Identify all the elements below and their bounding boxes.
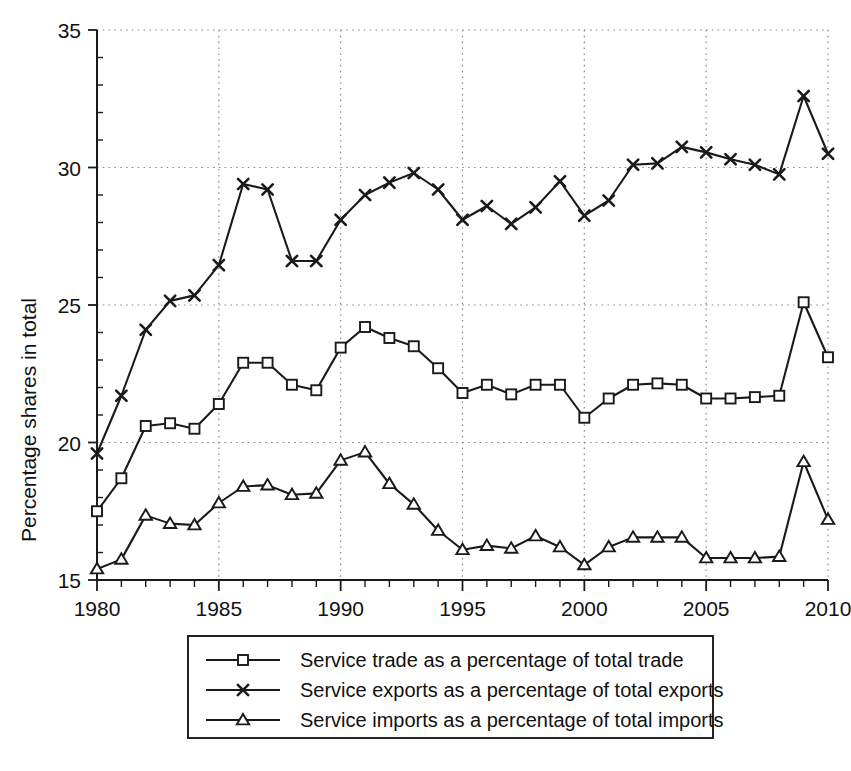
x-tick-label-1985: 1985: [195, 597, 242, 620]
data-point-1991: [360, 322, 370, 332]
data-point-1986: [238, 358, 248, 368]
data-point-2010: [823, 352, 833, 362]
data-point-2007: [750, 392, 760, 402]
x-tick-label-1995: 1995: [439, 597, 486, 620]
data-point-1991: [359, 446, 371, 456]
legend-item-0[interactable]: Service trade as a percentage of total t…: [206, 649, 684, 671]
data-point-1994: [433, 184, 443, 194]
y-tick-label-20: 20: [58, 432, 81, 455]
data-point-1981: [116, 391, 126, 401]
data-point-2010: [822, 513, 834, 523]
data-point-1987: [263, 358, 273, 368]
y-tick-label-25: 25: [58, 294, 81, 317]
legend-marker-square-icon: [238, 655, 248, 665]
data-point-2000: [579, 210, 589, 220]
x-tick-label-2000: 2000: [561, 597, 608, 620]
line-chart: 1520253035 1980198519901995200020052010 …: [0, 0, 851, 771]
data-point-2001: [604, 394, 614, 404]
data-point-1985: [214, 399, 224, 409]
legend-item-label: Service trade as a percentage of total t…: [300, 649, 684, 671]
x-tick-label-2005: 2005: [683, 597, 730, 620]
data-point-1996: [482, 201, 492, 211]
data-point-1988: [287, 380, 297, 390]
data-point-1992: [384, 177, 394, 187]
data-point-1992: [384, 333, 394, 343]
data-point-1982: [141, 421, 151, 431]
data-point-1981: [115, 553, 127, 563]
data-point-2000: [578, 559, 590, 569]
axis-ticks: [88, 30, 828, 591]
chart-legend: Service trade as a percentage of total t…: [188, 636, 724, 738]
legend-item-label: Service imports as a percentage of total…: [300, 709, 724, 731]
data-point-1982: [140, 509, 152, 519]
data-point-1994: [433, 363, 443, 373]
data-point-1998: [529, 530, 541, 540]
data-point-2002: [628, 380, 638, 390]
data-point-2003: [652, 378, 662, 388]
data-point-1984: [189, 424, 199, 434]
x-axis-tick-labels: 1980198519901995200020052010: [74, 597, 851, 620]
y-tick-label-30: 30: [58, 157, 81, 180]
data-point-1980: [92, 506, 102, 516]
data-point-2000: [579, 413, 589, 423]
data-point-2008: [773, 551, 785, 561]
legend-item-1[interactable]: Service exports as a percentage of total…: [206, 679, 724, 701]
x-tick-label-1980: 1980: [74, 597, 121, 620]
data-point-1990: [336, 343, 346, 353]
data-point-1989: [311, 385, 321, 395]
data-point-1991: [360, 190, 370, 200]
data-point-1999: [555, 380, 565, 390]
data-point-2006: [726, 394, 736, 404]
data-point-2008: [774, 391, 784, 401]
data-point-1997: [506, 219, 516, 229]
data-point-2001: [604, 195, 614, 205]
data-point-2009: [798, 91, 808, 101]
x-tick-label-2010: 2010: [805, 597, 851, 620]
data-point-1996: [481, 540, 493, 550]
series-line: [97, 302, 828, 511]
data-point-2008: [774, 169, 784, 179]
data-point-2004: [677, 380, 687, 390]
data-point-1985: [213, 497, 225, 507]
data-point-2010: [823, 149, 833, 159]
data-point-2005: [701, 394, 711, 404]
y-axis-title: Percentage shares in total: [17, 298, 40, 542]
data-point-2009: [799, 297, 809, 307]
legend-item-label: Service exports as a percentage of total…: [300, 679, 724, 701]
data-point-1995: [458, 388, 468, 398]
data-point-1998: [531, 380, 541, 390]
data-point-2009: [797, 456, 809, 466]
data-point-1996: [482, 380, 492, 390]
chart-figure: 1520253035 1980198519901995200020052010 …: [0, 0, 851, 771]
data-point-1983: [165, 418, 175, 428]
data-point-1999: [555, 176, 565, 186]
data-point-1997: [506, 389, 516, 399]
legend-item-2[interactable]: Service imports as a percentage of total…: [206, 709, 724, 731]
data-point-1993: [409, 168, 419, 178]
y-tick-label-35: 35: [58, 19, 81, 42]
data-point-1993: [409, 341, 419, 351]
y-axis-tick-labels: 1520253035: [58, 19, 81, 592]
y-tick-label-15: 15: [58, 569, 81, 592]
x-tick-label-1990: 1990: [317, 597, 364, 620]
data-point-1998: [530, 202, 540, 212]
data-point-1982: [141, 325, 151, 335]
data-point-1987: [261, 479, 273, 489]
data-point-1981: [116, 473, 126, 483]
